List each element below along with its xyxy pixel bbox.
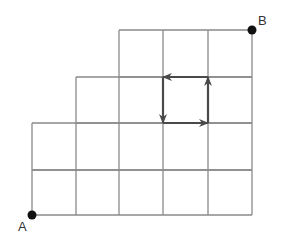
- point-a-dot: [28, 211, 37, 220]
- point-a-label: A: [18, 219, 27, 234]
- grid-lines: [32, 30, 252, 215]
- point-b-dot: [248, 26, 257, 35]
- loop-arrows: [163, 77, 208, 123]
- point-b-label: B: [258, 13, 267, 28]
- grid-diagram: A B: [0, 0, 281, 246]
